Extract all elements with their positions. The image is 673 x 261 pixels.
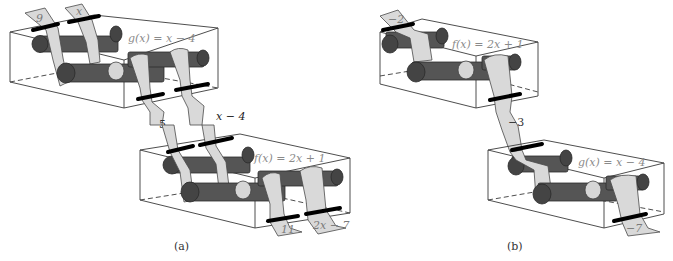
roller-front-end bbox=[407, 62, 425, 82]
function-label-g: g(x) = x − 4 bbox=[128, 32, 195, 45]
roller-end bbox=[560, 150, 572, 166]
machine-g-bottom: −7 g(x) = x − 4 bbox=[488, 140, 664, 236]
function-label-f: f(x) = 2x + 1 bbox=[451, 38, 523, 51]
roller-front-light-end bbox=[108, 62, 124, 80]
roller-front-end bbox=[57, 63, 75, 83]
box-bottom-front-edge bbox=[488, 200, 604, 228]
composition-diagram: 9 x g(x) = x − 4 5 x − 4 bbox=[0, 0, 673, 261]
machine-g-top: 9 x g(x) = x − 4 bbox=[10, 4, 218, 125]
box-bottom-front-edge bbox=[380, 84, 476, 108]
roller-end bbox=[382, 35, 398, 53]
roller-front-light-end bbox=[235, 181, 251, 199]
intermediate-value-x-4: x − 4 bbox=[216, 110, 245, 123]
caption-b: (b) bbox=[507, 240, 523, 253]
intermediate-value-neg3: −3 bbox=[508, 116, 524, 129]
tape-label-output-2x-7: 2x − 7 bbox=[312, 219, 349, 232]
roller-front-end bbox=[533, 184, 551, 204]
roller-output-end bbox=[637, 174, 649, 190]
roller-front-light-end bbox=[458, 61, 474, 79]
tape-label-output-neg7: −7 bbox=[626, 222, 642, 235]
roller-output-end bbox=[331, 169, 343, 185]
roller-end bbox=[436, 28, 448, 44]
function-label-f: f(x) = 2x + 1 bbox=[253, 152, 325, 165]
roller-front-end bbox=[181, 182, 199, 202]
roller-output-end bbox=[509, 54, 521, 70]
caption-a: (a) bbox=[174, 240, 189, 253]
tape-label-output-11: 11 bbox=[281, 223, 295, 236]
panel-b: −2 f(x) = 2x + 1 −3 bbox=[380, 10, 664, 253]
roller-output-end bbox=[197, 50, 209, 66]
tape-label-input-neg2: −2 bbox=[388, 13, 404, 26]
roller-end bbox=[32, 36, 48, 53]
roller-end bbox=[110, 26, 122, 42]
roller-front-light-end bbox=[585, 181, 601, 199]
machine-f-bottom: 11 2x − 7 f(x) = 2x + 1 bbox=[140, 125, 350, 236]
panel-a: 9 x g(x) = x − 4 5 x − 4 bbox=[10, 4, 350, 253]
machine-f-top: −2 f(x) = 2x + 1 bbox=[380, 10, 538, 152]
tape-input-x bbox=[65, 4, 100, 64]
function-label-g: g(x) = x − 4 bbox=[578, 156, 645, 169]
tape-label-input-x: x bbox=[76, 5, 83, 18]
box-bottom-front-edge bbox=[140, 200, 255, 228]
tape-label-input-9: 9 bbox=[36, 12, 43, 25]
box-bottom-front-edge bbox=[10, 82, 124, 108]
roller-end bbox=[242, 147, 254, 163]
